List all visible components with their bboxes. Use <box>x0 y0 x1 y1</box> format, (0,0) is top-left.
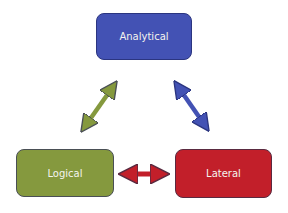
arrow-analytical-lateral <box>179 88 204 124</box>
node-analytical: Analytical <box>96 13 192 60</box>
arrow-logical-analytical <box>86 88 112 125</box>
node-label: Logical <box>47 168 82 179</box>
node-logical: Logical <box>16 149 114 197</box>
node-label: Analytical <box>119 31 168 42</box>
node-label: Lateral <box>206 168 241 179</box>
node-lateral: Lateral <box>175 149 272 198</box>
